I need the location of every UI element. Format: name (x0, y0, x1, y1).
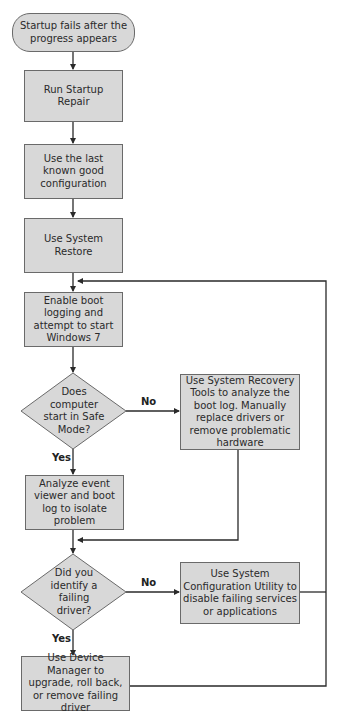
safe-mode-yes-label: Yes (52, 452, 71, 463)
safe-mode-decision-label: Does computer start in Safe Mode? (38, 386, 110, 436)
boot-logging-step: Enable boot logging and attempt to start… (24, 292, 123, 347)
driver-yes-label: Yes (52, 633, 71, 644)
last-known-good-step: Use the last known good configuration (24, 144, 123, 199)
analyze-event-viewer-step: Analyze event viewer and boot log to iso… (25, 475, 124, 530)
analyze-event-viewer-label: Analyze event viewer and boot log to iso… (28, 478, 121, 528)
last-known-good-label: Use the last known good configuration (34, 153, 114, 191)
device-manager-step: Use Device Manager to upgrade, roll back… (21, 656, 130, 711)
boot-logging-label: Enable boot logging and attempt to start… (27, 295, 120, 345)
start-terminal: Startup fails after the progress appears (12, 13, 135, 52)
safe-mode-decision: Does computer start in Safe Mode? (38, 390, 110, 432)
failing-driver-decision-label: Did you identify a failing driver? (40, 567, 108, 617)
recovery-tools-step: Use System Recovery Tools to analyze the… (180, 374, 300, 450)
driver-no-label: No (141, 577, 156, 588)
system-config-label: Use System Configuration Utility to disa… (183, 568, 297, 618)
device-manager-label: Use Device Manager to upgrade, roll back… (24, 652, 127, 715)
run-startup-repair-step: Run Startup Repair (24, 70, 123, 122)
start-label: Startup fails after the progress appears (15, 20, 132, 45)
run-startup-repair-label: Run Startup Repair (44, 84, 104, 109)
safe-mode-no-label: No (141, 396, 156, 407)
system-config-step: Use System Configuration Utility to disa… (180, 562, 300, 624)
system-restore-label: Use System Restore (44, 233, 104, 258)
recovery-tools-label: Use System Recovery Tools to analyze the… (183, 375, 297, 450)
failing-driver-decision: Did you identify a failing driver? (40, 571, 108, 613)
system-restore-step: Use System Restore (24, 218, 123, 273)
